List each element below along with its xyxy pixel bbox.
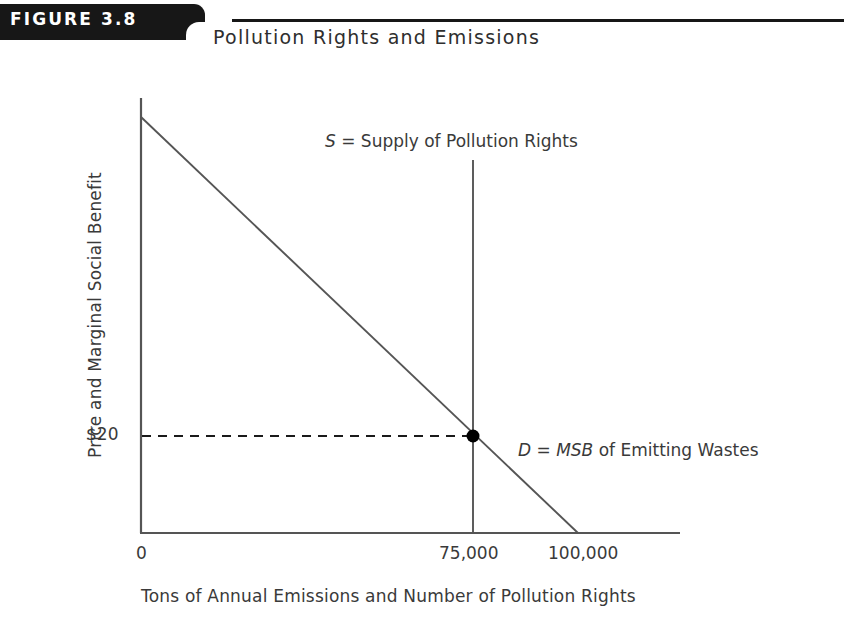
demand-text: of Emitting Wastes	[593, 440, 758, 460]
supply-equals: =	[336, 131, 361, 151]
x-tick-label-75000: 75,000	[439, 543, 498, 563]
supply-curve-label: S = Supply of Pollution Rights	[325, 131, 578, 151]
equilibrium-point	[467, 430, 480, 443]
y-tick-label-price: $20	[86, 424, 118, 444]
plot-area	[0, 0, 844, 627]
demand-symbol: D	[518, 440, 531, 460]
figure-container: FIGURE 3.8 Pollution Rights and Emission…	[0, 0, 844, 627]
demand-equals: =	[531, 440, 556, 460]
demand-curve-label: D = MSB of Emitting Wastes	[518, 440, 759, 460]
supply-text: Supply of Pollution Rights	[361, 131, 578, 151]
x-tick-label-100000: 100,000	[548, 543, 618, 563]
demand-measure: MSB	[556, 440, 593, 460]
demand-curve	[141, 117, 578, 533]
supply-symbol: S	[325, 131, 336, 151]
x-tick-label-0: 0	[136, 543, 147, 563]
